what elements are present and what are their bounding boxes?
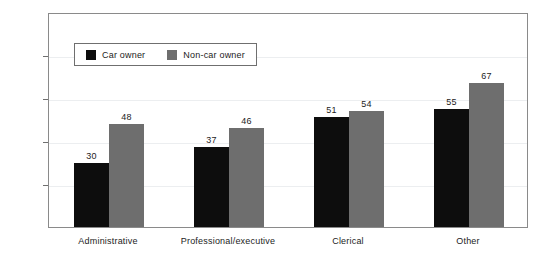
x-tick-label: Administrative [48,236,168,246]
bar-value-label: 54 [349,99,384,109]
bar-value-label: 51 [314,105,349,115]
bar-chart: % smokers 020406080100 3048374651545567 … [0,0,539,255]
bar-value-label: 46 [229,116,264,126]
legend-label: Non-car owner [183,50,245,60]
bar [349,111,384,227]
bar [109,124,144,227]
plot-area: 3048374651545567 Car ownerNon-car owner [48,13,528,228]
legend-item: Non-car owner [167,50,245,60]
bar-value-label: 55 [434,97,469,107]
bar-value-label: 37 [194,135,229,145]
legend-swatch-car-owner [86,50,96,60]
legend-item: Car owner [86,50,145,60]
legend-label: Car owner [102,50,145,60]
chart-legend: Car ownerNon-car owner [74,43,257,66]
bar-value-label: 67 [469,71,504,81]
x-tick-label: Other [408,236,528,246]
bar [434,109,469,227]
bar [74,163,109,228]
bar-value-label: 30 [74,151,109,161]
bar [314,117,349,227]
x-tick-label: Clerical [288,236,408,246]
bar [194,147,229,227]
legend-swatch-non-car-owner [167,50,177,60]
bar [229,128,264,227]
x-tick-label: Professional/executive [168,236,288,246]
bar-value-label: 48 [109,112,144,122]
bar [469,83,504,227]
